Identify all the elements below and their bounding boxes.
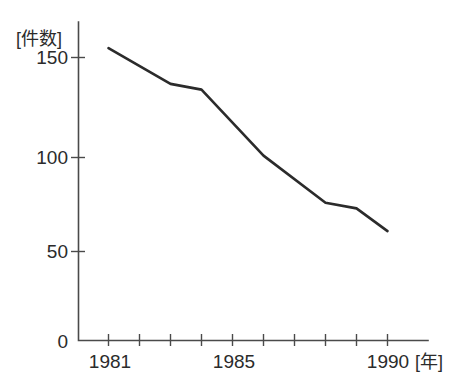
y-tick-label-100: 100 xyxy=(36,147,68,168)
y-tick-label-150: 150 xyxy=(36,47,68,68)
y-tick-label-50: 50 xyxy=(47,241,68,262)
y-axis-unit-label: [件数] xyxy=(16,29,62,49)
x-tick-label-1981: 1981 xyxy=(89,351,131,372)
y-tick-label-0: 0 xyxy=(57,331,68,352)
line-chart: [件数] 150 100 50 0 1981 1985 xyxy=(0,0,470,386)
x-tick-label-1985: 1985 xyxy=(213,351,255,372)
chart-canvas: [件数] 150 100 50 0 1981 1985 xyxy=(0,0,470,386)
data-series-line xyxy=(109,48,388,231)
axis-lines xyxy=(79,22,429,341)
x-tick-label-1990: 1990 xyxy=(367,351,409,372)
x-axis-unit-label: [年] xyxy=(415,352,443,372)
